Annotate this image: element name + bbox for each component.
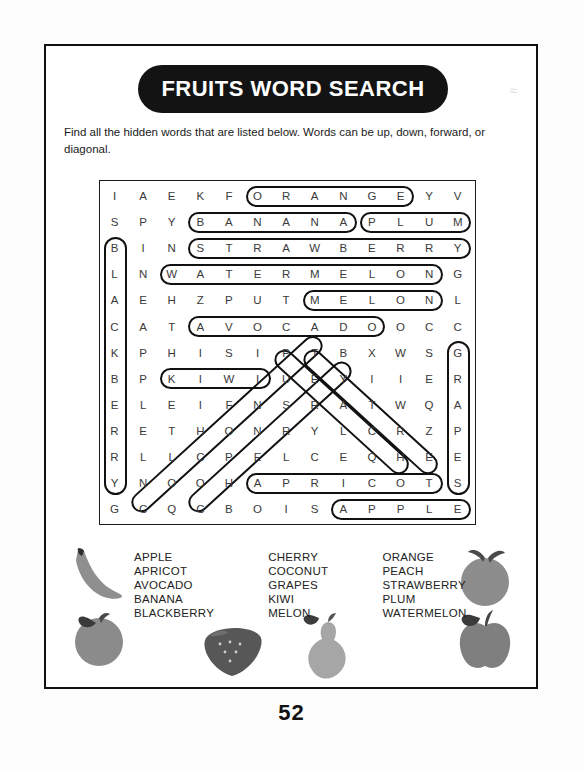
grid-cell[interactable]: R — [301, 470, 328, 496]
word-search-grid[interactable]: IAEKFORANGEYVSPYBANANAPLUMBINSTRAWBERRYL… — [99, 180, 476, 525]
word-list-item[interactable]: COCONUT — [268, 565, 328, 577]
grid-cell[interactable]: P — [215, 444, 242, 470]
grid-cell[interactable]: U — [416, 209, 443, 235]
grid-cell[interactable]: E — [244, 444, 271, 470]
grid-cell[interactable]: S — [444, 470, 471, 496]
grid-cell[interactable]: A — [330, 496, 357, 522]
grid-cell[interactable]: R — [387, 418, 414, 444]
grid-cell[interactable]: R — [444, 366, 471, 392]
grid-cell[interactable]: K — [101, 340, 128, 366]
grid-cell[interactable]: P — [273, 340, 300, 366]
grid-cell[interactable]: C — [187, 444, 214, 470]
grid-cell[interactable]: N — [301, 209, 328, 235]
grid-cell[interactable]: E — [101, 392, 128, 418]
grid-cell[interactable]: A — [187, 314, 214, 340]
grid-cell[interactable]: U — [244, 287, 271, 313]
grid-cell[interactable]: E — [444, 444, 471, 470]
grid-cell[interactable]: Q — [358, 444, 385, 470]
grid-cell[interactable]: N — [158, 235, 185, 261]
grid-cell[interactable]: B — [215, 496, 242, 522]
grid-cell[interactable]: K — [187, 183, 214, 209]
grid-cell[interactable]: P — [130, 340, 157, 366]
grid-cell[interactable]: R — [273, 418, 300, 444]
grid-cell[interactable]: C — [101, 314, 128, 340]
grid-cell[interactable]: P — [215, 287, 242, 313]
grid-cell[interactable]: Z — [187, 287, 214, 313]
grid-cell[interactable]: G — [444, 261, 471, 287]
grid-cell[interactable]: B — [330, 340, 357, 366]
grid-cell[interactable]: Z — [416, 418, 443, 444]
grid-cell[interactable]: O — [387, 314, 414, 340]
grid-cell[interactable]: L — [130, 444, 157, 470]
grid-cell[interactable]: M — [444, 209, 471, 235]
grid-cell[interactable]: E — [416, 366, 443, 392]
grid-cell[interactable]: L — [158, 444, 185, 470]
grid-cell[interactable]: A — [101, 287, 128, 313]
word-list-item[interactable]: PEACH — [382, 565, 466, 577]
grid-cell[interactable]: E — [158, 392, 185, 418]
word-list-item[interactable]: BLACKBERRY — [134, 607, 214, 619]
grid-cell[interactable]: N — [244, 392, 271, 418]
grid-cell[interactable]: C — [187, 496, 214, 522]
word-list-item[interactable]: PLUM — [382, 593, 466, 605]
grid-cell[interactable]: N — [130, 470, 157, 496]
grid-cell[interactable]: I — [244, 340, 271, 366]
grid-cell[interactable]: S — [301, 496, 328, 522]
grid-cell[interactable]: O — [358, 314, 385, 340]
grid-cell[interactable]: M — [301, 287, 328, 313]
grid-cell[interactable]: N — [130, 261, 157, 287]
grid-cell[interactable]: A — [301, 183, 328, 209]
grid-cell[interactable]: E — [158, 183, 185, 209]
grid-cell[interactable]: I — [358, 366, 385, 392]
grid-cell[interactable]: L — [101, 261, 128, 287]
grid-cell[interactable]: S — [187, 235, 214, 261]
grid-cell[interactable]: E — [130, 287, 157, 313]
grid-cell[interactable]: R — [101, 418, 128, 444]
grid-cell[interactable]: B — [330, 235, 357, 261]
grid-cell[interactable]: A — [130, 314, 157, 340]
grid-cell[interactable]: Y — [101, 470, 128, 496]
grid-cell[interactable]: E — [330, 261, 357, 287]
grid-cell[interactable]: H — [187, 418, 214, 444]
grid-cell[interactable]: R — [301, 392, 328, 418]
grid-cell[interactable]: P — [358, 209, 385, 235]
word-list-item[interactable]: KIWI — [268, 593, 328, 605]
grid-cell[interactable]: O — [244, 314, 271, 340]
grid-cell[interactable]: O — [187, 470, 214, 496]
grid-cell[interactable]: R — [387, 235, 414, 261]
grid-cell[interactable]: A — [273, 209, 300, 235]
grid-cell[interactable]: N — [416, 287, 443, 313]
grid-cell[interactable]: N — [330, 183, 357, 209]
grid-cell[interactable]: B — [187, 209, 214, 235]
grid-cell[interactable]: E — [244, 261, 271, 287]
grid-cell[interactable]: L — [444, 287, 471, 313]
grid-cell[interactable]: R — [244, 235, 271, 261]
word-list-item[interactable]: ORANGE — [382, 551, 466, 563]
grid-cell[interactable]: L — [416, 496, 443, 522]
grid-cell[interactable]: A — [273, 235, 300, 261]
grid-cell[interactable]: E — [358, 235, 385, 261]
grid-cell[interactable]: E — [416, 444, 443, 470]
grid-cell[interactable]: E — [130, 418, 157, 444]
word-list-item[interactable]: MELON — [268, 607, 328, 619]
grid-cell[interactable]: I — [187, 340, 214, 366]
grid-cell[interactable]: Y — [158, 209, 185, 235]
grid-cell[interactable]: I — [387, 366, 414, 392]
grid-cell[interactable]: A — [444, 392, 471, 418]
grid-cell[interactable]: T — [301, 340, 328, 366]
grid-cell[interactable]: G — [444, 340, 471, 366]
grid-cell[interactable]: C — [416, 314, 443, 340]
grid-cell[interactable]: C — [301, 444, 328, 470]
grid-cell[interactable]: N — [416, 261, 443, 287]
grid-cell[interactable]: S — [273, 392, 300, 418]
grid-cell[interactable]: A — [330, 392, 357, 418]
grid-cell[interactable]: S — [416, 340, 443, 366]
grid-cell[interactable]: R — [101, 444, 128, 470]
grid-cell[interactable]: L — [130, 392, 157, 418]
word-list-item[interactable]: WATERMELON — [382, 607, 466, 619]
grid-cell[interactable]: O — [215, 418, 242, 444]
grid-cell[interactable]: L — [358, 287, 385, 313]
grid-cell[interactable]: E — [387, 183, 414, 209]
grid-cell[interactable]: C — [358, 470, 385, 496]
grid-cell[interactable]: A — [130, 183, 157, 209]
